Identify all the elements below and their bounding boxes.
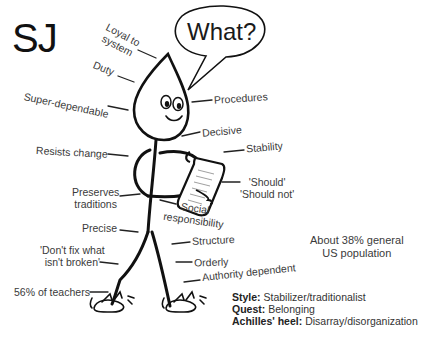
population-line2: US population [322,247,391,259]
label-orderly: Orderly [194,255,229,268]
label-preserves-traditions: Preservestraditions [72,186,119,210]
style-label: Style: [232,291,261,303]
population-line1: About 38% general [310,234,404,246]
label-dont-fix-line1: 'Don't fix what [40,244,105,256]
style-value: Stabilizer/traditionalist [264,291,366,303]
label-should: 'Should''Should not' [240,176,294,200]
label-should-line1: 'Should' [249,176,286,188]
label-structure: Structure [192,233,235,247]
label-dont-fix: 'Don't fix whatisn't broken' [40,244,105,268]
speech-bubble-text: What? [187,18,256,46]
type-title: SJ [12,16,57,60]
heel-value: Disarray/disorganization [305,315,418,327]
heel-label: Achilles' heel: [232,315,302,327]
quest-label: Quest: [232,303,265,315]
summary-quest: Quest: Belonging [232,303,315,316]
label-teachers: 56% of teachers [14,286,90,298]
population-note: About 38% generalUS population [310,234,404,260]
label-precise: Precise [82,222,117,234]
quest-value: Belonging [268,303,315,315]
label-preserves-line2: traditions [74,198,117,210]
figure-feet [91,292,207,312]
label-preserves-line1: Preserves [72,186,119,198]
label-dont-fix-line2: isn't broken' [45,256,100,268]
label-should-line2: 'Should not' [240,188,294,200]
figure-head [134,54,188,140]
summary-style: Style: Stabilizer/traditionalist [232,291,366,304]
summary-achilles-heel: Achilles' heel: Disarray/disorganization [232,315,418,328]
